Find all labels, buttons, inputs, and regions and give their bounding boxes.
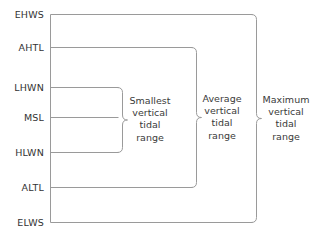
range-label-average-line-0: Average xyxy=(202,93,241,105)
datum-label-ehws: EHWS xyxy=(15,9,44,20)
range-label-maximum: Maximumverticaltidalrange xyxy=(263,94,310,143)
datum-label-elws: ELWS xyxy=(17,217,44,228)
range-label-maximum-line-1: vertical xyxy=(263,106,310,118)
datum-label-altl: ALTL xyxy=(22,182,44,193)
range-label-smallest-line-0: Smallest xyxy=(130,95,171,107)
datum-label-ahtl: AHTL xyxy=(18,42,44,53)
range-label-smallest-line-3: range xyxy=(130,131,171,143)
range-label-smallest-line-2: tidal xyxy=(130,119,171,131)
range-label-maximum-line-2: tidal xyxy=(263,118,310,130)
range-label-smallest-line-1: vertical xyxy=(130,107,171,119)
brace-maximum xyxy=(252,15,262,223)
datum-label-hlwn: HLWN xyxy=(15,147,44,158)
range-label-maximum-line-3: range xyxy=(263,130,310,142)
datum-label-msl: MSL xyxy=(24,112,44,123)
brace-average xyxy=(192,48,202,188)
range-label-average-line-2: tidal xyxy=(202,117,241,129)
range-label-average: Averageverticaltidalrange xyxy=(202,93,241,142)
range-label-average-line-1: vertical xyxy=(202,105,241,117)
brace-smallest xyxy=(118,88,128,153)
datum-label-lhwn: LHWN xyxy=(14,82,44,93)
range-label-average-line-3: range xyxy=(202,129,241,141)
range-label-maximum-line-0: Maximum xyxy=(263,94,310,106)
tidal-datum-diagram: EHWSAHTLLHWNMSLHLWNALTLELWS Smallestvert… xyxy=(0,0,318,236)
range-label-smallest: Smallestverticaltidalrange xyxy=(130,95,171,144)
